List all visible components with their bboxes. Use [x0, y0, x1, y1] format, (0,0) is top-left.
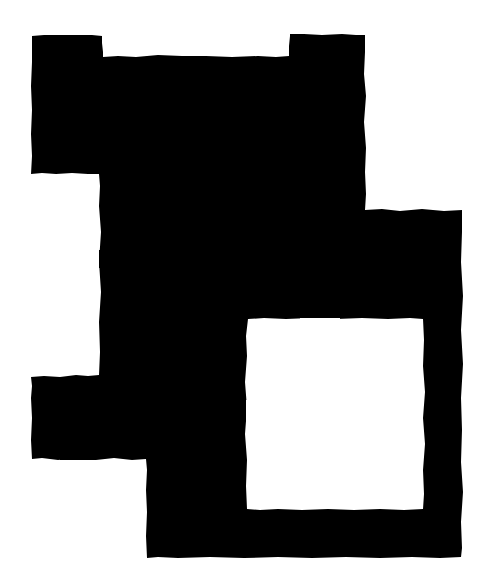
abstract-composition-svg: [0, 0, 489, 580]
edge-fleck-void-left: [246, 400, 248, 430]
edge-fleck-left-notch: [99, 250, 102, 268]
artwork-canvas: Abstract Black Geometric Composition A s…: [0, 0, 489, 580]
edge-fleck-lower-left: [60, 458, 96, 460]
edge-fleck-void-top: [300, 318, 340, 320]
